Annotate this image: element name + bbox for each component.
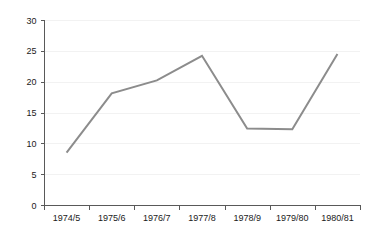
gridlines xyxy=(44,21,360,206)
x-tick-labels: 1974/51975/61976/71977/81978/91979/80198… xyxy=(53,213,354,223)
y-tick-label: 15 xyxy=(26,108,36,118)
x-tick-label: 1977/8 xyxy=(188,213,216,223)
y-axis xyxy=(41,21,45,206)
data-series xyxy=(67,54,338,153)
x-tick-label: 1978/9 xyxy=(233,213,261,223)
y-tick-label: 25 xyxy=(26,46,36,56)
chart-canvas: 051015202530 1974/51975/61976/71977/8197… xyxy=(0,0,382,241)
series-line xyxy=(67,54,338,153)
line-chart: 051015202530 1974/51975/61976/71977/8197… xyxy=(0,0,382,241)
x-axis xyxy=(45,206,361,210)
x-tick-label: 1974/5 xyxy=(53,213,81,223)
y-tick-label: 20 xyxy=(26,77,36,87)
y-tick-label: 0 xyxy=(31,201,36,211)
y-tick-labels: 051015202530 xyxy=(26,16,36,211)
x-tick-label: 1975/6 xyxy=(98,213,126,223)
y-tick-label: 10 xyxy=(26,139,36,149)
x-tick-label: 1976/7 xyxy=(143,213,171,223)
x-tick-label: 1979/80 xyxy=(276,213,309,223)
y-tick-label: 5 xyxy=(31,170,36,180)
y-tick-label: 30 xyxy=(26,16,36,26)
x-tick-label: 1980/81 xyxy=(321,213,354,223)
